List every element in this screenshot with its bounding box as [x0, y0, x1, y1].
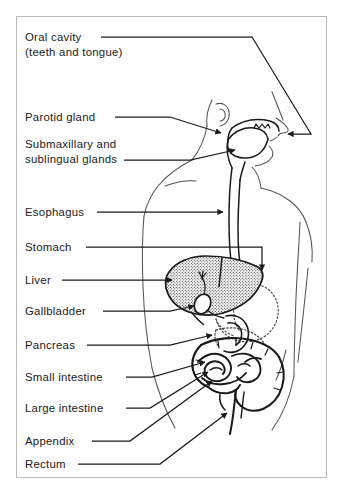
label-texts: Oral cavity (teeth and tongue) Parotid g… [25, 31, 123, 470]
label-oral-cavity-line2: (teeth and tongue) [25, 46, 123, 58]
leader-oral-cavity [101, 37, 311, 134]
label-gallbladder: Gallbladder [25, 305, 86, 317]
oral-cavity-anatomy [227, 120, 279, 158]
rectum-anatomy [230, 390, 244, 434]
leader-rectum [78, 413, 227, 464]
label-esophagus: Esophagus [25, 206, 84, 218]
label-oral-cavity-line1: Oral cavity [25, 31, 82, 43]
label-submaxillary-line1: Submaxillary and [25, 138, 116, 150]
digestive-system-illustration: Oral cavity (teeth and tongue) Parotid g… [0, 0, 343, 496]
label-parotid-gland: Parotid gland [25, 111, 95, 123]
label-pancreas: Pancreas [25, 339, 75, 351]
pancreas-duodenum-anatomy [215, 315, 265, 352]
label-large-intestine: Large intestine [25, 402, 103, 414]
label-liver: Liver [25, 274, 51, 286]
digestive-system-figure: Oral cavity (teeth and tongue) Parotid g… [0, 0, 343, 496]
leader-submaxillary [124, 150, 235, 160]
small-intestine-anatomy [198, 354, 261, 385]
label-stomach: Stomach [25, 241, 72, 253]
leader-lines [62, 37, 311, 464]
label-small-intestine: Small intestine [25, 371, 103, 383]
label-appendix: Appendix [25, 435, 75, 447]
leader-parotid-gland [115, 117, 221, 133]
label-rectum: Rectum [25, 458, 66, 470]
leader-pancreas [87, 335, 212, 345]
label-submaxillary-line2: sublingual glands [25, 153, 117, 165]
leader-appendix [92, 381, 212, 441]
